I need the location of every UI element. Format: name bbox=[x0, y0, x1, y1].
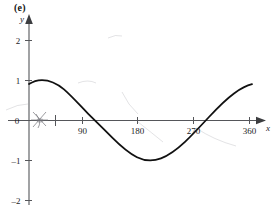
x-axis-arrow-icon bbox=[256, 117, 266, 124]
smudge-icon bbox=[196, 128, 236, 146]
axis-names: y x bbox=[19, 14, 270, 133]
x-tick-label-270: 270 bbox=[187, 126, 201, 136]
smudge-icon bbox=[6, 104, 28, 110]
scribble-annotation bbox=[31, 112, 48, 128]
scribble-blob-icon bbox=[37, 118, 44, 122]
smudge-icon bbox=[108, 35, 122, 38]
figure-container: (e) bbox=[0, 0, 275, 216]
x-axis bbox=[8, 115, 266, 126]
plot-canvas: 2 1 0 –1 –2 90 180 270 360 y x bbox=[0, 0, 275, 216]
smudge-icon bbox=[78, 81, 96, 83]
smudge-icon bbox=[122, 92, 138, 114]
y-tick-label-2: 2 bbox=[16, 36, 21, 46]
y-tick-label-neg2: –2 bbox=[11, 196, 21, 206]
scan-artifacts bbox=[6, 35, 236, 146]
y-tick-label-1: 1 bbox=[16, 76, 21, 86]
x-axis-label: x bbox=[265, 123, 270, 133]
y-axis bbox=[25, 14, 33, 205]
y-axis-label: y bbox=[19, 14, 24, 24]
y-axis-arrow-icon bbox=[25, 14, 33, 24]
x-tick-label-90: 90 bbox=[78, 126, 88, 136]
x-tick-label-180: 180 bbox=[131, 126, 145, 136]
y-tick-label-neg1: –1 bbox=[11, 156, 21, 166]
origin-label: 0 bbox=[15, 116, 20, 126]
x-tick-label-360: 360 bbox=[243, 126, 257, 136]
